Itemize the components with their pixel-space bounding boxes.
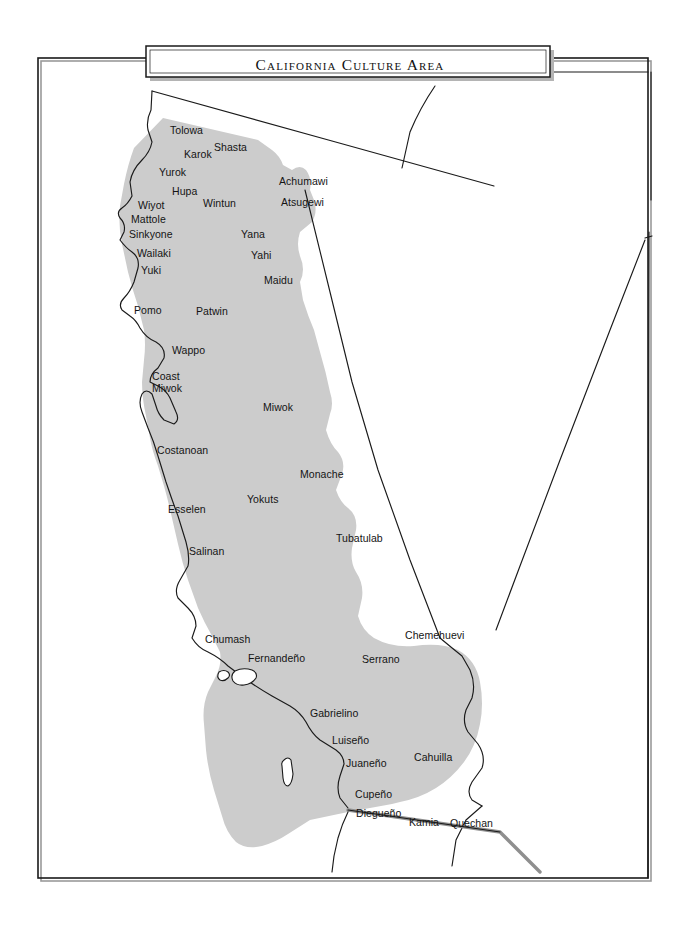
tribe-label-kamia: Kamia: [409, 817, 439, 829]
tribe-label-diegueno: Diegueño: [356, 808, 401, 820]
tribe-label-karok: Karok: [184, 149, 212, 161]
tribe-label-coastmiwok: Coast Miwok: [152, 371, 182, 394]
tribe-label-tubatulab: Tubatulab: [336, 533, 383, 545]
tribe-label-wintun: Wintun: [203, 198, 236, 210]
tribe-label-yurok: Yurok: [159, 167, 186, 179]
map-page: California Culture Area TolowaKarokShast…: [0, 0, 692, 928]
tribe-label-salinan: Salinan: [189, 546, 224, 558]
tribe-label-fernandeno: Fernandeño: [248, 653, 305, 665]
tribe-label-maidu: Maidu: [264, 275, 293, 287]
tribe-label-monache: Monache: [300, 469, 344, 481]
tribe-label-miwok: Miwok: [263, 402, 293, 414]
tribe-label-wailaki: Wailaki: [137, 248, 171, 260]
baja-coastline: [332, 812, 348, 872]
tribe-label-wiyot: Wiyot: [138, 200, 165, 212]
tribe-label-costanoan: Costanoan: [157, 445, 208, 457]
culture-area-shape: [119, 118, 482, 847]
tribe-label-yahi: Yahi: [251, 250, 271, 262]
tribe-label-sinkyone: Sinkyone: [129, 229, 173, 241]
tribe-label-mattole: Mattole: [131, 214, 166, 226]
island-santa-catalina: [282, 758, 293, 786]
tribe-label-quechan: Quechan: [450, 818, 493, 830]
tribe-label-yana: Yana: [241, 229, 265, 241]
tribe-label-chemehuevi: Chemehuevi: [405, 630, 464, 642]
tribe-label-serrano: Serrano: [362, 654, 400, 666]
tribe-label-chumash: Chumash: [205, 634, 250, 646]
tribe-label-hupa: Hupa: [172, 186, 197, 198]
tribe-label-pomo: Pomo: [134, 305, 162, 317]
tribe-label-wappo: Wappo: [172, 345, 205, 357]
tribe-label-patwin: Patwin: [196, 306, 228, 318]
oregon-idaho-border: [402, 86, 435, 168]
tribe-label-luiseno: Luiseño: [332, 735, 369, 747]
tribe-label-tolowa: Tolowa: [170, 125, 203, 137]
tribe-label-gabrielino: Gabrielino: [310, 708, 358, 720]
tribe-label-cahuilla: Cahuilla: [414, 752, 452, 764]
tribe-label-shasta: Shasta: [214, 142, 247, 154]
map-title: California Culture Area: [150, 50, 550, 80]
tribe-label-achumawi: Achumawi: [279, 176, 328, 188]
tribe-label-esselen: Esselen: [168, 504, 206, 516]
tribe-label-juaneno: Juaneño: [346, 758, 387, 770]
tribe-label-cupeno: Cupeño: [355, 789, 392, 801]
arizona-mexico-border: [452, 806, 482, 866]
tribe-label-yuki: Yuki: [141, 265, 161, 277]
california-culture-area-map: [0, 0, 692, 928]
nevada-utah-border: [496, 240, 645, 630]
tribe-label-atsugewi: Atsugewi: [281, 197, 324, 209]
tribe-label-yokuts: Yokuts: [247, 494, 278, 506]
